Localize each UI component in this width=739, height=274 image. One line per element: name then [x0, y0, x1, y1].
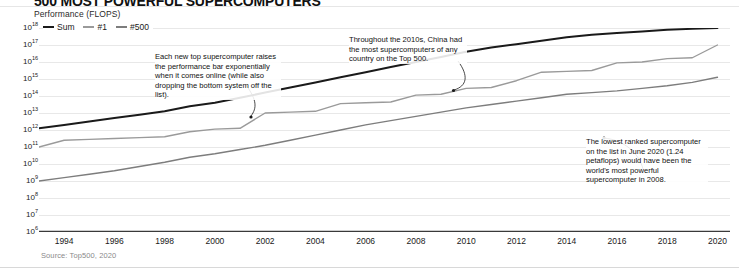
y-axis-tick-label: 106: [26, 228, 38, 236]
y-axis-tick-label: 1011: [23, 143, 38, 151]
x-axis-tick-label: 2002: [256, 237, 275, 246]
chart-legend: Sum#1#500: [43, 22, 153, 32]
y-axis-tick-label: 1018: [23, 24, 38, 32]
legend-item-rank1[interactable]: #1: [83, 22, 106, 32]
x-axis-tick-label: 2004: [306, 237, 325, 246]
x-axis-tick-label: 2006: [356, 237, 375, 246]
x-axis-tick-label: 2014: [557, 237, 576, 246]
x-axis-tick-label: 1994: [55, 237, 74, 246]
y-axis-tick-label: 1010: [23, 160, 38, 168]
y-axis-tick-label: 1014: [23, 92, 38, 100]
legend-label: Sum: [57, 22, 74, 32]
y-axis-tick-label: 1016: [23, 58, 38, 66]
x-axis-tick-label: 2000: [205, 237, 224, 246]
legend-swatch-icon: [83, 26, 94, 28]
x-axis-tick-label: 1996: [105, 237, 124, 246]
chart-page: 500 MOST POWERFUL SUPERCOMPUTERS Perform…: [0, 0, 739, 274]
y-axis-tick-label: 107: [26, 211, 38, 219]
legend-label: #1: [97, 22, 106, 32]
page-title: 500 MOST POWERFUL SUPERCOMPUTERS: [34, 0, 734, 7]
source-note: Source: Top500, 2020: [41, 251, 116, 260]
y-axis: 1018101710161015101410131012101110101091…: [8, 28, 38, 232]
bottom-divider: [0, 267, 739, 268]
x-axis-tick-label: 2016: [607, 237, 626, 246]
legend-item-sum[interactable]: Sum: [43, 22, 74, 32]
legend-label: #500: [130, 22, 149, 32]
legend-item-rank500[interactable]: #500: [116, 22, 149, 32]
annotation-lowest-ranked: The lowest ranked supercomputer on the l…: [586, 137, 708, 185]
y-axis-tick-label: 1012: [23, 126, 38, 134]
x-axis-tick-label: 2012: [507, 237, 526, 246]
leader-line-annotation-1: [454, 61, 465, 90]
y-axis-tick-label: 1013: [23, 109, 38, 117]
y-axis-tick-label: 108: [26, 194, 38, 202]
legend-swatch-icon: [43, 26, 54, 28]
x-axis: 1994199619982000200220042006200820102012…: [39, 232, 730, 250]
annotation-china: Throughout the 2010s, China had the most…: [349, 35, 467, 64]
x-axis-tick-label: 2020: [708, 237, 727, 246]
y-axis-tick-label: 109: [26, 177, 38, 185]
annotation-top-supercomputer: Each new top supercomputer raises the pe…: [155, 52, 281, 100]
x-axis-tick-label: 1998: [155, 237, 174, 246]
legend-swatch-icon: [116, 26, 127, 28]
y-axis-tick-label: 1017: [23, 41, 38, 49]
x-axis-tick-label: 2010: [457, 237, 476, 246]
y-axis-tick-label: 1015: [23, 75, 38, 83]
x-axis-tick-label: 2008: [406, 237, 425, 246]
leader-arrow-annotation-0: [249, 115, 252, 118]
leader-arrow-annotation-1: [452, 89, 455, 92]
y-axis-title: Performance (FLOPS): [34, 9, 120, 19]
x-axis-tick-label: 2018: [658, 237, 677, 246]
